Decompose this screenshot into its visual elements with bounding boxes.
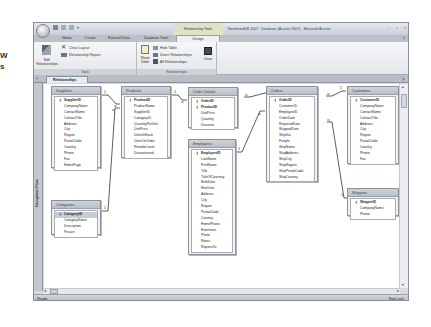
- access-window: ▾ Relationship Tools NorthwindDB 2007 : …: [33, 22, 409, 301]
- table-suppliers[interactable]: Suppliers ⚷SupplierID CompanyName Contac…: [51, 86, 101, 168]
- tab-home[interactable]: Home: [56, 35, 78, 42]
- document-tabs: « Relationships ×: [34, 75, 408, 83]
- clear-layout-button[interactable]: ✕ Clear Layout: [61, 45, 131, 51]
- table-employees[interactable]: Employees ⚷EmployeeID LastName FirstName…: [188, 139, 236, 255]
- relationship-line: [102, 95, 120, 104]
- field-list: ⚷CategoryID CategoryName Description Pic…: [54, 210, 98, 238]
- field-list: ⚷ShipperID CompanyName Phone: [350, 198, 396, 220]
- tab-create[interactable]: Create: [80, 35, 100, 42]
- close-icon: [204, 47, 212, 55]
- direct-relationships-button[interactable]: Direct Relationships: [153, 52, 207, 58]
- help-icon[interactable]: ?: [403, 35, 405, 42]
- customize-qat-icon[interactable]: ▾: [77, 25, 82, 30]
- vertical-scrollbar[interactable]: ▲ ▼: [399, 84, 408, 288]
- ribbon: Edit Relationships ✕ Clear Layout Relati…: [34, 42, 408, 75]
- maximize-icon[interactable]: ▫: [396, 24, 397, 32]
- direct-relationships-icon: [153, 53, 158, 57]
- ribbon-group-tools: Edit Relationships ✕ Clear Layout Relati…: [34, 42, 137, 75]
- table-title[interactable]: Orders: [267, 87, 317, 95]
- close-document-icon[interactable]: ×: [402, 75, 405, 83]
- field-item[interactable]: ShipCountry: [270, 175, 314, 181]
- edit-relationships-icon: [42, 45, 51, 55]
- svg-text:1: 1: [341, 193, 343, 197]
- relationships-tab-label: Relationships: [53, 78, 77, 82]
- field-item[interactable]: HomePage: [55, 163, 97, 169]
- status-bar: Ready Num Lock: [34, 294, 408, 301]
- undo-icon[interactable]: [61, 25, 66, 30]
- clear-layout-icon: ✕: [61, 44, 66, 50]
- nav-pane-toggle-icon[interactable]: «: [36, 76, 38, 81]
- show-table-label: Show Table: [139, 56, 151, 64]
- show-table-icon: [141, 45, 149, 54]
- close-window-icon[interactable]: ×: [404, 24, 406, 32]
- hide-table-button[interactable]: Hide Table: [153, 45, 203, 51]
- field-item[interactable]: Picture: [55, 230, 97, 236]
- svg-text:∞: ∞: [112, 108, 115, 112]
- window-title: NorthwindDB 2007 : Database (Access 2007…: [228, 23, 331, 35]
- field-list: ⚷SupplierID CompanyName ContactName Cont…: [54, 96, 98, 171]
- field-list: ⚷ProductID ProductName SupplierID Catego…: [124, 96, 168, 159]
- page: W s ▾ Relationship Tools NorthwindDB 200…: [0, 0, 431, 327]
- svg-text:1: 1: [238, 147, 240, 151]
- hide-table-label: Hide Table: [160, 45, 177, 51]
- field-list: ⚷OrderID ⚷ProductID UnitPrice Quantity D…: [191, 97, 235, 130]
- relationship-report-button[interactable]: Relationship Report: [61, 52, 135, 58]
- background-text-2: s: [0, 62, 4, 71]
- quick-access-toolbar: ▾: [53, 25, 82, 30]
- close-relationships-button[interactable]: Close: [201, 46, 215, 66]
- office-button[interactable]: [36, 24, 50, 38]
- field-item[interactable]: Fax: [351, 157, 395, 163]
- table-order-details[interactable]: Order Details ⚷OrderID ⚷ProductID UnitPr…: [188, 87, 238, 128]
- table-products[interactable]: Products ⚷ProductID ProductName Supplier…: [121, 86, 171, 158]
- window-controls: – ▫ ×: [388, 24, 406, 32]
- svg-text:∞: ∞: [245, 93, 248, 97]
- table-orders[interactable]: Orders ⚷OrderID CustomerID EmployeeID Or…: [266, 86, 318, 182]
- svg-text:1: 1: [104, 206, 106, 210]
- clear-layout-label: Clear Layout: [69, 45, 89, 51]
- field-item[interactable]: Discount: [192, 123, 234, 129]
- show-table-button[interactable]: Show Table: [139, 44, 151, 68]
- scroll-down-icon[interactable]: ▼: [401, 283, 404, 287]
- status-text: Ready: [37, 295, 47, 301]
- navigation-pane-label: Navigation Pane: [35, 173, 42, 213]
- field-item[interactable]: Phone: [351, 212, 395, 218]
- ribbon-group-relationships: Show Table Hide Table Direct Relationshi…: [137, 42, 217, 75]
- table-title[interactable]: Customers: [348, 87, 398, 95]
- navigation-pane[interactable]: Navigation Pane: [34, 83, 43, 291]
- tab-database-tools[interactable]: Database Tools: [138, 35, 174, 42]
- svg-text:1: 1: [104, 90, 106, 94]
- contextual-tools-label: Relationship Tools: [173, 23, 223, 35]
- table-customers[interactable]: Customers ⚷CustomerID CompanyName Contac…: [347, 86, 399, 164]
- field-item[interactable]: ReportsTo: [192, 245, 232, 251]
- edit-relationships-button[interactable]: Edit Relationships: [36, 44, 58, 68]
- field-item[interactable]: Discontinued: [125, 151, 167, 157]
- table-title[interactable]: Suppliers: [52, 87, 100, 95]
- field-list: ⚷EmployeeID LastName FirstName Title Tit…: [191, 149, 233, 253]
- table-title[interactable]: Order Details: [189, 88, 237, 96]
- all-relationships-label: All Relationships: [160, 59, 187, 65]
- vertical-scroll-thumb[interactable]: [401, 94, 407, 108]
- table-title[interactable]: Categories: [52, 201, 100, 209]
- tab-relationships[interactable]: Relationships: [46, 76, 88, 83]
- all-relationships-button[interactable]: All Relationships: [153, 59, 207, 65]
- relationships-canvas[interactable]: 1∞ 1∞ 1∞ 1∞ 1∞ 1∞ 1∞ Suppliers ⚷Supplier…: [44, 84, 400, 288]
- table-title[interactable]: Products: [122, 87, 170, 95]
- svg-text:∞: ∞: [327, 92, 330, 96]
- scroll-up-icon[interactable]: ▲: [401, 85, 404, 89]
- redo-icon[interactable]: [69, 25, 74, 30]
- table-title[interactable]: Employees: [189, 140, 235, 148]
- relationship-report-label: Relationship Report: [69, 52, 101, 58]
- hide-table-icon: [153, 46, 158, 50]
- all-relationships-icon: [153, 59, 158, 64]
- tab-design[interactable]: Design: [176, 35, 220, 42]
- relationship-report-icon: [61, 53, 67, 57]
- table-shippers[interactable]: Shippers ⚷ShipperID CompanyName Phone: [347, 188, 399, 216]
- tab-external-data[interactable]: External Data: [102, 35, 136, 42]
- save-icon[interactable]: [53, 25, 58, 30]
- table-title[interactable]: Shippers: [348, 189, 398, 197]
- field-list: ⚷CustomerID CompanyName ContactName Cont…: [350, 96, 396, 165]
- field-list: ⚷OrderID CustomerID EmployeeID OrderDate…: [269, 96, 315, 182]
- svg-text:∞: ∞: [327, 118, 330, 122]
- table-categories[interactable]: Categories ⚷CategoryID CategoryName Desc…: [51, 200, 101, 235]
- minimize-icon[interactable]: –: [388, 24, 390, 32]
